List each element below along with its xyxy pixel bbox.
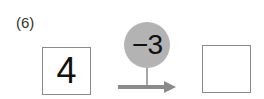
operation-label: −3	[132, 29, 162, 61]
operation-circle: −3	[124, 22, 170, 68]
answer-box[interactable]	[202, 45, 251, 93]
